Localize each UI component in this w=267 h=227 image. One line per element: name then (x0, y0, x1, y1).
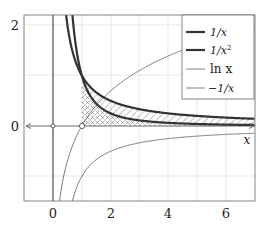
x-tick-label: 2 (107, 206, 115, 221)
x-tick-label: 4 (164, 206, 172, 221)
open-circle-x1 (79, 123, 84, 128)
x-axis-label: x (244, 133, 251, 147)
legend-label-1-over-x2-base: 1/x (210, 44, 228, 57)
open-circle-origin (51, 124, 55, 128)
legend-label-1-over-x: 1/x (210, 26, 228, 39)
y-tick-label: 2 (11, 18, 19, 33)
legend: 1/x 1/x2 ln x −1/x (182, 15, 254, 99)
chart: 0 2 4 6 2 0 x 1/x 1/x2 ln x −1/x (0, 0, 267, 227)
x-tick-label: 0 (49, 206, 57, 221)
legend-label-neg-1-over-x: −1/x (208, 82, 235, 95)
curve-neg-1-over-x (72, 133, 254, 201)
x-tick-label: 6 (222, 206, 230, 221)
legend-label-exponent: 2 (227, 44, 231, 52)
legend-label-ln-x: ln x (210, 62, 232, 76)
y-tick-label: 0 (11, 119, 19, 134)
